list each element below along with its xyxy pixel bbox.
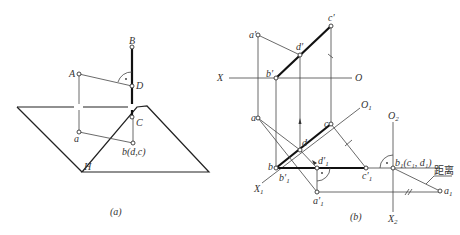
label-c: c — [324, 118, 329, 129]
point-d-prime — [298, 53, 302, 57]
line-c-c1prime — [331, 124, 366, 168]
point-c — [329, 122, 333, 126]
label-d1-prime: d′1 — [318, 155, 329, 168]
label-a: a — [74, 133, 79, 144]
arrow-up-icon — [299, 118, 302, 124]
point-d1-prime — [315, 166, 319, 170]
right-angle-dot-d1 — [321, 172, 323, 174]
line-d-d1prime — [300, 150, 317, 168]
label-bdc: b(d,c) — [122, 146, 146, 158]
line-AD — [79, 74, 132, 86]
label-X: X — [216, 72, 224, 83]
label-a1: a1 — [444, 185, 453, 198]
point-c-prime — [329, 24, 333, 28]
line-b-prime-c-prime — [276, 26, 331, 78]
label-B: B — [129, 35, 135, 46]
point-C — [130, 115, 134, 119]
point-a1-prime — [315, 190, 319, 194]
point-bdc — [131, 141, 135, 145]
label-A: A — [68, 68, 76, 79]
label-b1-prime: b′1 — [279, 172, 290, 185]
label-c-prime: c′ — [328, 12, 335, 23]
label-distance: 距离 — [434, 164, 454, 176]
label-D: D — [135, 80, 144, 91]
point-d — [298, 148, 302, 152]
line-ad — [258, 118, 300, 150]
figure-a: B D C A a b(d,c) H (a) — [17, 35, 209, 218]
leader-distance — [426, 176, 434, 184]
line-ab — [79, 132, 133, 143]
figure-b: X O X1 O1 O2 X2 — [216, 12, 454, 226]
right-angle-dot — [125, 78, 127, 80]
right-angle-dot-b1 — [386, 162, 388, 164]
label-d-prime: d′ — [296, 41, 304, 52]
point-b — [274, 166, 278, 170]
label-C: C — [136, 117, 143, 128]
label-b: b — [268, 161, 273, 172]
label-b-prime: b′ — [266, 68, 274, 79]
point-a1 — [438, 189, 442, 193]
label-O1: O1 — [361, 99, 372, 112]
arrow-icon — [312, 160, 317, 165]
label-a1-prime: a′1 — [313, 195, 324, 208]
line-b1-a1 — [393, 168, 440, 191]
point-a — [256, 116, 260, 120]
label-O: O — [355, 72, 362, 83]
caption-b: (b) — [350, 211, 362, 223]
right-angle-mark — [118, 72, 132, 82]
line-a-prime-d-prime — [258, 35, 300, 55]
label-H: H — [83, 161, 92, 172]
diagram-canvas: B D C A a b(d,c) H (a) X O X1 O1 O2 X2 — [0, 0, 460, 235]
right-angle-mark-d1 — [317, 168, 330, 181]
label-a-prime: a′ — [249, 29, 257, 40]
point-A — [77, 72, 81, 76]
label-c1-prime: c′1 — [362, 170, 372, 183]
point-a-prime — [256, 33, 260, 37]
label-X2: X2 — [387, 213, 398, 226]
label-X1: X1 — [253, 183, 264, 196]
label-a: a — [251, 112, 256, 123]
point-b-prime — [274, 76, 278, 80]
label-O2: O2 — [388, 110, 399, 123]
tick-mark — [328, 54, 333, 58]
right-angle-mark-b1 — [380, 155, 393, 168]
caption-a: (a) — [110, 206, 122, 218]
point-D — [130, 84, 134, 88]
